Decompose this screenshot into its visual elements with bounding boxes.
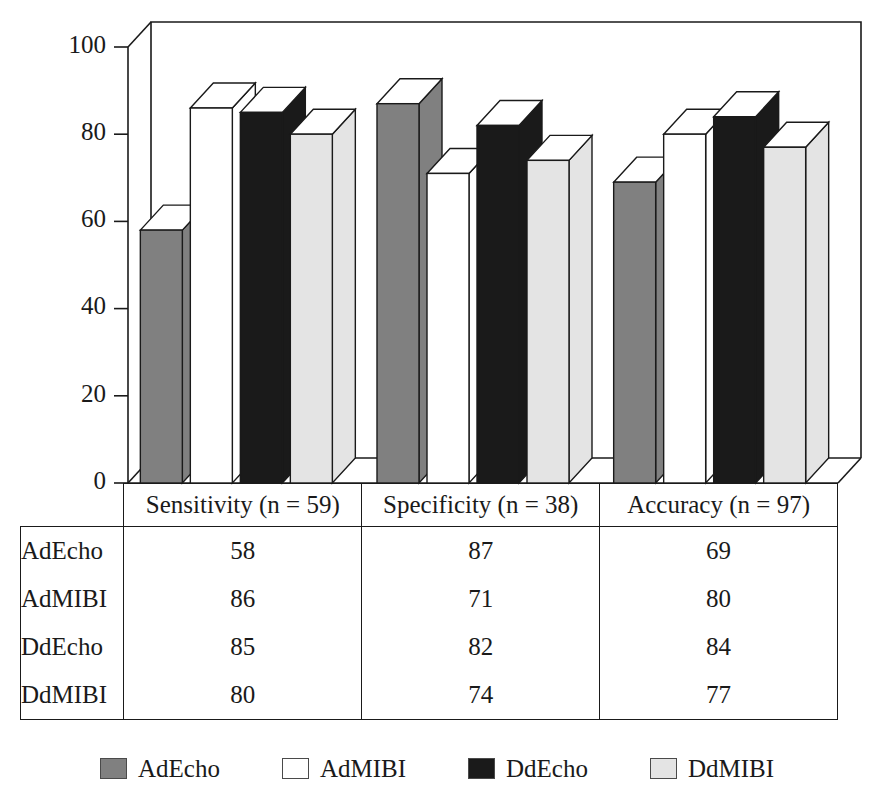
- table-corner-cell: [21, 484, 124, 527]
- table-row-label-adecho: AdEcho: [21, 527, 124, 576]
- table-cell-adecho-accuracy: 69: [600, 527, 838, 576]
- chart-legend: AdEcho AdMIBI DdEcho DdMIBI: [0, 745, 874, 791]
- legend-swatch-admibi: [282, 758, 309, 779]
- table-cell-ddecho-sensitivity: 85: [124, 623, 362, 671]
- bar-adecho-accuracy-front: [614, 182, 656, 483]
- table-row: AdEcho 58 87 69: [21, 527, 838, 576]
- legend-swatch-ddmibi: [650, 758, 677, 779]
- bar-ddmibi-specificity-side: [569, 135, 592, 483]
- bar-ddecho-specificity-front: [477, 125, 519, 483]
- bars-group: [140, 79, 828, 483]
- legend-label-ddmibi: DdMIBI: [688, 756, 774, 781]
- table-cell-admibi-sensitivity: 86: [124, 575, 362, 623]
- table-cell-ddecho-accuracy: 84: [600, 623, 838, 671]
- figure-root: 100806040200 Sensitivity (n = 59) Specif…: [0, 0, 874, 801]
- bar-adecho-specificity-front: [377, 104, 419, 483]
- bar-ddecho-sensitivity-front: [240, 112, 282, 483]
- y-axis-tick-labels: 100806040200: [69, 31, 129, 494]
- bar-ddmibi-specificity: [527, 135, 592, 483]
- table-col-header-accuracy: Accuracy (n = 97): [600, 484, 838, 527]
- legend-item-admibi: AdMIBI: [282, 756, 406, 781]
- bar-ddmibi-sensitivity-front: [290, 134, 332, 483]
- legend-item-ddecho: DdEcho: [468, 756, 588, 781]
- bar-ddecho-accuracy-front: [714, 117, 756, 483]
- data-table: Sensitivity (n = 59) Specificity (n = 38…: [20, 483, 838, 720]
- bar-chart: 100806040200: [0, 0, 874, 500]
- legend-label-ddecho: DdEcho: [506, 756, 588, 781]
- y-tick-label-60: 60: [81, 205, 106, 232]
- legend-label-adecho: AdEcho: [138, 756, 220, 781]
- bar-ddmibi-accuracy-side: [806, 122, 829, 483]
- table-row-label-ddecho: DdEcho: [21, 623, 124, 671]
- bar-admibi-accuracy-front: [664, 134, 706, 483]
- chart-depth-edge-top: [128, 22, 151, 47]
- table-body: AdEcho 58 87 69 AdMIBI 86 71 80 DdEcho 8…: [21, 527, 838, 720]
- bar-adecho-sensitivity-front: [140, 230, 182, 483]
- table-cell-ddmibi-specificity: 74: [362, 671, 600, 720]
- bar-ddmibi-accuracy-front: [764, 147, 806, 483]
- table-cell-ddmibi-accuracy: 77: [600, 671, 838, 720]
- y-tick-label-80: 80: [81, 118, 106, 145]
- table-row: DdMIBI 80 74 77: [21, 671, 838, 720]
- legend-item-ddmibi: DdMIBI: [650, 756, 774, 781]
- table-header: Sensitivity (n = 59) Specificity (n = 38…: [21, 484, 838, 527]
- legend-swatch-ddecho: [468, 758, 495, 779]
- y-tick-label-100: 100: [69, 31, 107, 58]
- table-row-label-ddmibi: DdMIBI: [21, 671, 124, 720]
- y-tick-label-20: 20: [81, 380, 106, 407]
- table-row-label-admibi: AdMIBI: [21, 575, 124, 623]
- table-cell-ddmibi-sensitivity: 80: [124, 671, 362, 720]
- table-cell-admibi-specificity: 71: [362, 575, 600, 623]
- bar-ddmibi-accuracy: [764, 122, 829, 483]
- legend-item-adecho: AdEcho: [100, 756, 220, 781]
- legend-label-admibi: AdMIBI: [320, 756, 406, 781]
- bar-ddmibi-sensitivity-side: [332, 109, 355, 483]
- table-cell-ddecho-specificity: 82: [362, 623, 600, 671]
- bar-admibi-sensitivity-front: [190, 108, 232, 483]
- bar-ddmibi-specificity-front: [527, 160, 569, 483]
- table-cell-admibi-accuracy: 80: [600, 575, 838, 623]
- chart-canvas: 100806040200: [0, 0, 874, 500]
- legend-swatch-adecho: [100, 758, 127, 779]
- table-col-header-specificity: Specificity (n = 38): [362, 484, 600, 527]
- table-col-header-sensitivity: Sensitivity (n = 59): [124, 484, 362, 527]
- table-row: AdMIBI 86 71 80: [21, 575, 838, 623]
- y-tick-label-40: 40: [81, 292, 106, 319]
- table-header-row: Sensitivity (n = 59) Specificity (n = 38…: [21, 484, 838, 527]
- chart-depth-edge-bottom-right: [838, 458, 861, 483]
- bar-admibi-specificity-front: [427, 173, 469, 483]
- bar-ddmibi-sensitivity: [290, 109, 355, 483]
- table-row: DdEcho 85 82 84: [21, 623, 838, 671]
- table-cell-adecho-sensitivity: 58: [124, 527, 362, 576]
- table-cell-adecho-specificity: 87: [362, 527, 600, 576]
